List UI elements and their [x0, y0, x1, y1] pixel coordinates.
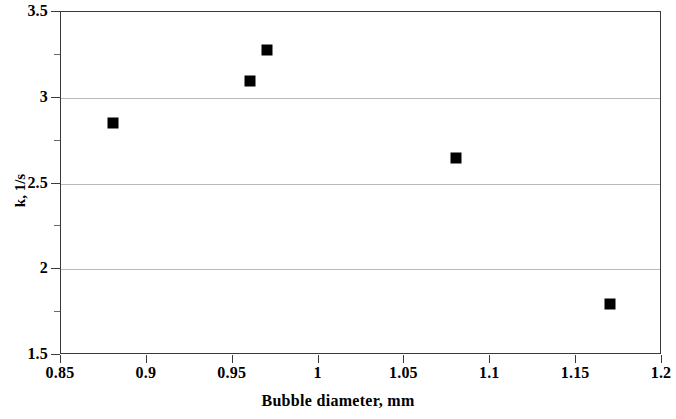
y-axis-tick-label: 3.5: [0, 3, 48, 19]
y-axis-minor-tick: [54, 140, 60, 141]
y-axis-tick: [51, 11, 60, 12]
data-point: [450, 152, 461, 163]
x-axis-tick-label: 1.15: [535, 364, 615, 382]
y-axis-tick: [51, 97, 60, 98]
y-axis-tick-label: 2: [0, 260, 48, 276]
y-axis-tick: [51, 354, 60, 355]
data-point: [244, 75, 255, 86]
x-axis-tick: [403, 355, 404, 363]
x-axis-tick: [232, 355, 233, 363]
x-axis-tick: [146, 355, 147, 363]
y-axis-tick: [51, 268, 60, 269]
x-axis-tick-label: 0.95: [192, 364, 272, 382]
x-axis-tick: [661, 355, 662, 363]
data-point: [107, 118, 118, 129]
x-axis-tick-label: 0.9: [106, 364, 186, 382]
gridline: [61, 98, 660, 99]
data-point: [605, 298, 616, 309]
y-axis-minor-tick: [54, 225, 60, 226]
plot-area: [60, 11, 661, 354]
y-axis-tick-label: 3: [0, 89, 48, 105]
x-axis-tick-label: 1: [278, 364, 358, 382]
x-axis-tick-label: 0.85: [20, 364, 100, 382]
x-axis-tick-label: 1.05: [363, 364, 443, 382]
y-axis-title: k, 1/s: [12, 131, 29, 251]
x-axis-title: Bubble diameter, mm: [0, 392, 676, 410]
y-axis-tick-label: 1.5: [0, 346, 48, 362]
x-axis-tick: [489, 355, 490, 363]
scatter-chart: 1.522.533.5 0.850.90.9511.051.11.151.2 k…: [0, 0, 676, 419]
gridline: [61, 184, 660, 185]
data-point: [262, 44, 273, 55]
x-axis-tick: [60, 355, 61, 363]
x-axis-tick-label: 1.2: [621, 364, 676, 382]
gridline: [61, 269, 660, 270]
y-axis-tick: [51, 183, 60, 184]
y-axis-minor-tick: [54, 311, 60, 312]
x-axis-tick: [318, 355, 319, 363]
x-axis-tick-label: 1.1: [449, 364, 529, 382]
y-axis-minor-tick: [54, 54, 60, 55]
x-axis-tick: [575, 355, 576, 363]
